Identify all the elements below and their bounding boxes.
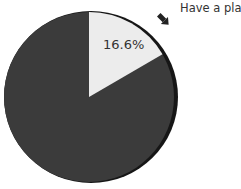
slice-percent-label: 16.6% [103, 37, 144, 52]
pie-chart: 16.6% [0, 0, 241, 189]
annotation-have-a-plan: Have a plan [180, 1, 241, 15]
arrow-pointer-icon [155, 11, 172, 28]
